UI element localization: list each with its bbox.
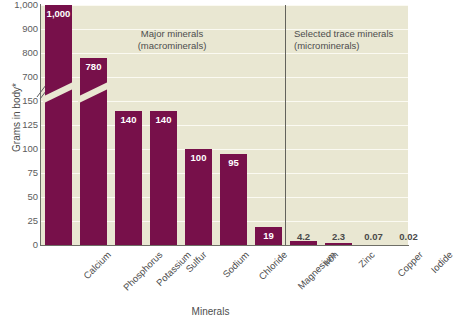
bar[interactable]: [80, 58, 107, 245]
bar[interactable]: [185, 149, 212, 245]
bar[interactable]: [115, 111, 142, 245]
y-tick-label: 1,000: [2, 0, 38, 10]
bar[interactable]: [150, 111, 177, 245]
bar-break-stripe: [78, 81, 109, 103]
y-tick-label: 900: [2, 24, 38, 34]
x-axis-line: [40, 245, 409, 246]
x-tick-label: Copper: [395, 249, 425, 279]
y-tick-label: 25: [2, 216, 38, 226]
bar[interactable]: [45, 5, 72, 245]
bar-break-stripe: [43, 81, 74, 103]
gridline: [41, 53, 408, 54]
gridline: [41, 5, 408, 6]
bar[interactable]: [290, 241, 317, 245]
y-axis-title: Grams in body*: [11, 58, 22, 178]
y-tick-label: 800: [2, 48, 38, 58]
major-minerals-note-line1: Major minerals: [112, 28, 232, 40]
mineral-group-divider: [285, 5, 286, 245]
x-tick-label: Chloride: [256, 249, 289, 282]
bar[interactable]: [325, 243, 352, 245]
x-tick-label: Sodium: [220, 249, 251, 280]
y-axis-line: [40, 4, 41, 246]
bar[interactable]: [220, 154, 247, 245]
bar[interactable]: [255, 227, 282, 245]
x-tick-label: Phosphorus: [121, 249, 165, 293]
x-axis-title: Minerals: [0, 306, 421, 317]
y-tick-label: 50: [2, 192, 38, 202]
trace-minerals-note-line1: Selected trace minerals: [294, 28, 418, 40]
x-tick-label: Zinc: [356, 249, 376, 269]
trace-minerals-note: Selected trace minerals (microminerals): [294, 28, 418, 52]
y-tick-label: 0: [2, 240, 38, 250]
major-minerals-note: Major minerals (macrominerals): [112, 28, 232, 52]
x-tick-label: Iodide: [429, 249, 455, 275]
trace-minerals-note-line2: (microminerals): [294, 40, 418, 52]
x-tick-label: Calcium: [81, 249, 113, 281]
major-minerals-note-line2: (macrominerals): [112, 40, 232, 52]
